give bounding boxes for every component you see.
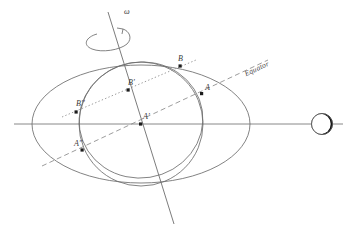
rotation-arrow: [86, 29, 130, 51]
figure-canvas: ω Equator A A' A'' B B' B'': [0, 0, 344, 236]
label-point-A-prime: A': [143, 112, 150, 121]
point-marker-B: [179, 64, 182, 67]
point-marker-B-prime: [127, 88, 130, 91]
moon-crescent-cutout: [310, 114, 330, 134]
rotation-axis-line: [108, 12, 174, 224]
point-marker-B-double-prime: [75, 110, 78, 113]
rotation-arrowhead-icon: [117, 28, 123, 34]
label-point-A-double-prime: A'': [74, 139, 83, 148]
label-point-B-prime: B': [128, 78, 135, 87]
label-point-B: B: [178, 54, 183, 63]
point-marker-A-prime: [139, 122, 142, 125]
label-point-B-double-prime: B'': [76, 99, 85, 108]
point-marker-A-double-prime: [81, 148, 84, 151]
point-marker-A: [200, 92, 203, 95]
diagram-svg: [0, 0, 344, 236]
label-omega: ω: [124, 7, 130, 16]
label-point-A: A: [205, 83, 210, 92]
